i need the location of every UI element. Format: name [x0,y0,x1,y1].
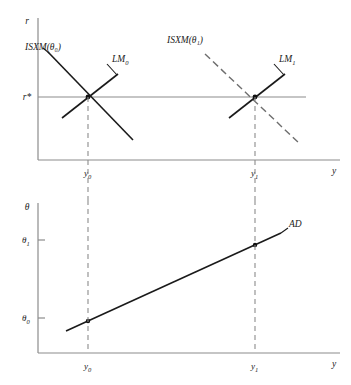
bottom-panel: θ y θ1 θ0 AD y0 y1 [22,200,340,373]
label-isxm-theta1: ISXM(θ₁) [166,35,203,46]
lm1-main: LM [278,54,293,64]
isxm-theta0-text: ISXM(θ₀) [24,42,61,53]
r-star-label: r* [23,92,32,102]
top-panel-y-axis-label: r [25,16,29,26]
bottom-panel-xtick-y0: y0 [83,361,92,373]
label-lm0: LM0 [111,54,129,66]
isxm0-main: ISXM [24,42,48,52]
bottom-y1-sub: 1 [255,366,258,373]
bottom-panel-y-axis-label: θ [25,202,30,212]
bottom-panel-x-axis-label: y [331,359,337,369]
top-y0-sub: 0 [88,173,92,180]
label-ad: AD [288,219,302,229]
top-panel-x-axis-label: y [331,166,337,176]
top-panel-xtick-y1: y1 [250,168,258,180]
curve-ad [66,233,281,331]
isxm-theta1-text: ISXM(θ₁) [166,35,203,46]
top-panel: r y r* ISXM(θ₀) ISXM(θ₁) LM0 LM1 y0 y1 [23,16,340,180]
theta1-sub: 1 [26,240,29,247]
theta0-sub: 0 [26,318,30,325]
isxm0-arg: (θ₀) [47,42,61,53]
lm0-sub: 0 [125,59,129,66]
bottom-panel-ytick-theta1: θ1 [22,235,30,247]
label-lm1: LM1 [278,54,295,66]
inter-panel-connectors [88,160,255,200]
lm1-leader-line [274,64,284,75]
lm0-leader-line [107,64,117,75]
lm1-sub: 1 [292,59,295,66]
isxm1-main: ISXM [166,35,190,45]
ad-leader-line [281,228,288,233]
isxm1-arg: (θ₁) [189,35,203,46]
bottom-panel-xtick-y1: y1 [250,361,258,373]
bottom-panel-ytick-theta0: θ0 [22,313,30,325]
bottom-y0-sub: 0 [88,366,92,373]
lm0-main: LM [111,54,126,64]
label-isxm-theta0: ISXM(θ₀) [24,42,61,53]
figure-root: r y r* ISXM(θ₀) ISXM(θ₁) LM0 LM1 y0 y1 [0,0,351,385]
economics-diagram: r y r* ISXM(θ₀) ISXM(θ₁) LM0 LM1 y0 y1 [0,0,351,385]
